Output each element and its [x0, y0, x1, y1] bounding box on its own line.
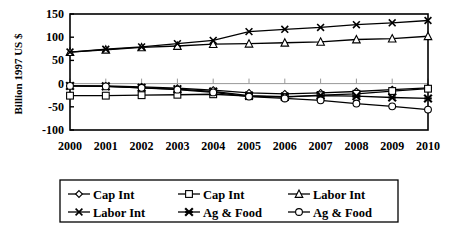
x-tick-label: 2000 — [58, 139, 82, 153]
series-marker — [210, 89, 217, 96]
x-tick-label: 2001 — [94, 139, 118, 153]
legend-marker-circle-open — [296, 209, 303, 216]
series-marker — [389, 88, 396, 95]
series-marker — [425, 106, 432, 113]
series-marker — [67, 92, 74, 99]
legend-label: Labor Int — [93, 206, 146, 220]
x-tick-label: 2009 — [380, 139, 404, 153]
series-marker — [102, 83, 109, 90]
y-tick-label: 50 — [52, 53, 64, 67]
series-marker — [174, 86, 181, 93]
series-marker — [425, 85, 432, 92]
series-3 — [67, 17, 432, 55]
x-tick-label: 2010 — [416, 139, 440, 153]
legend-label: Cap Int — [203, 188, 245, 202]
y-axis-title: Billion 1997 US $ — [12, 33, 24, 114]
x-tick-label: 2007 — [309, 139, 333, 153]
series-2 — [66, 32, 432, 55]
legend-marker-square-open — [186, 191, 193, 198]
series-marker — [138, 92, 145, 99]
legend-label: Cap Int — [93, 188, 135, 202]
series-5 — [67, 83, 432, 113]
x-tick-label: 2004 — [201, 139, 225, 153]
series-marker — [102, 92, 109, 99]
x-tick-label: 2003 — [165, 139, 189, 153]
chart-legend: Cap IntCap IntLabor IntLabor IntAg & Foo… — [60, 180, 398, 222]
series-marker — [67, 83, 74, 90]
x-tick-label: 2006 — [273, 139, 297, 153]
legend-label: Ag & Food — [313, 206, 372, 220]
line-chart: Billion 1997 US $150100500-50-1002000200… — [0, 0, 450, 229]
x-tick-label: 2008 — [344, 139, 368, 153]
y-tick-label: -50 — [48, 100, 64, 114]
y-tick-label: 150 — [46, 7, 64, 21]
series-marker — [317, 97, 324, 104]
y-tick-label: -100 — [42, 123, 64, 137]
y-tick-label: 100 — [46, 30, 64, 44]
legend-label: Labor Int — [313, 188, 366, 202]
legend-label: Ag & Food — [203, 206, 262, 220]
series-marker — [281, 95, 288, 102]
y-tick-label: 0 — [58, 77, 64, 91]
series-marker — [389, 103, 396, 110]
series-marker — [246, 93, 253, 100]
series-marker — [138, 84, 145, 91]
chart-figure: Billion 1997 US $150100500-50-1002000200… — [0, 0, 450, 229]
x-tick-label: 2005 — [237, 139, 261, 153]
x-tick-label: 2002 — [130, 139, 154, 153]
series-marker — [353, 100, 360, 107]
